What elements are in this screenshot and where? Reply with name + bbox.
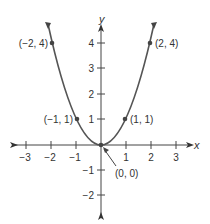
x-tick-label: 3 bbox=[173, 152, 179, 163]
curve-arrow-left-icon bbox=[45, 22, 51, 29]
point-1-1 bbox=[123, 117, 128, 122]
y-tick-label: 2 bbox=[88, 89, 94, 100]
y-tick-label: −1 bbox=[83, 165, 95, 176]
point-neg1-1 bbox=[75, 117, 80, 122]
y-tick-label: −2 bbox=[83, 190, 95, 201]
origin-pointer-arrow-icon bbox=[103, 147, 109, 153]
point-label: (−1, 1) bbox=[44, 114, 73, 125]
x-axis-label: x bbox=[193, 139, 200, 151]
point-2-4 bbox=[148, 41, 153, 46]
point-label: (0, 0) bbox=[115, 168, 138, 179]
y-tick-label: 3 bbox=[88, 63, 94, 74]
x-tick-label: −2 bbox=[44, 152, 56, 163]
y-tick-label: 1 bbox=[88, 114, 94, 125]
y-tick-label: 4 bbox=[88, 38, 94, 49]
point-origin bbox=[99, 143, 104, 148]
x-tick-label: 2 bbox=[148, 152, 154, 163]
x-tick-label: −1 bbox=[69, 152, 81, 163]
y-axis-label: y bbox=[98, 13, 106, 25]
point-label: (2, 4) bbox=[155, 38, 178, 49]
parabola-graph: x y −3 −2 −1 1 2 3 4 3 2 1 −1 −2 (−2, 4)… bbox=[0, 0, 210, 224]
point-label: (1, 1) bbox=[130, 114, 153, 125]
x-tick-label: −3 bbox=[19, 152, 31, 163]
curve-arrow-right-icon bbox=[151, 22, 157, 29]
x-tick-label: 1 bbox=[123, 152, 129, 163]
point-label: (−2, 4) bbox=[19, 38, 48, 49]
point-neg2-4 bbox=[50, 41, 55, 46]
